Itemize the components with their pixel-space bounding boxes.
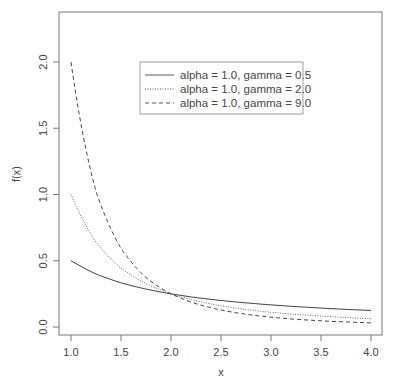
series-line-solid: [71, 261, 371, 311]
y-axis: 0.00.51.01.52.0: [37, 54, 59, 334]
x-tick-label: 3.0: [263, 346, 278, 358]
chart-canvas: 1.01.52.02.53.03.54.0 0.00.51.01.52.0 x …: [0, 0, 400, 386]
x-tick-label: 3.5: [313, 346, 328, 358]
y-tick-label: 1.0: [37, 187, 49, 202]
x-tick-label: 4.0: [363, 346, 378, 358]
y-tick-label: 2.0: [37, 54, 49, 69]
y-tick-label: 0.0: [37, 319, 49, 334]
x-axis-label: x: [218, 366, 224, 378]
x-tick-label: 1.5: [113, 346, 128, 358]
y-tick-label: 0.5: [37, 253, 49, 268]
legend-label: alpha = 1.0, gamma = 2.0: [180, 83, 311, 95]
y-tick-label: 1.5: [37, 121, 49, 136]
legend-label: alpha = 1.0, gamma = 0.5: [180, 69, 311, 81]
x-tick-label: 1.0: [63, 346, 78, 358]
x-tick-label: 2.5: [213, 346, 228, 358]
x-tick-label: 2.0: [163, 346, 178, 358]
x-axis: 1.01.52.02.53.03.54.0: [63, 335, 378, 358]
y-axis-label: f(x): [10, 166, 22, 182]
legend-label: alpha = 1.0, gamma = 9.0: [180, 97, 311, 109]
plot-frame: [59, 12, 382, 335]
legend: alpha = 1.0, gamma = 0.5 alpha = 1.0, ga…: [140, 62, 311, 114]
